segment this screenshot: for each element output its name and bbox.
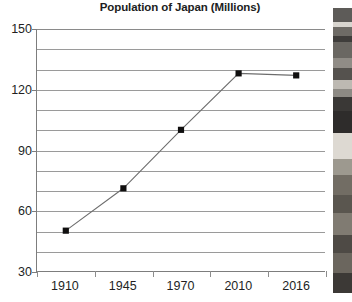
photo-band <box>333 58 352 68</box>
y-axis-tick-label: 60 <box>2 204 32 218</box>
photo-band <box>333 8 352 22</box>
series-line-population <box>66 73 296 230</box>
x-axis-tick <box>268 271 269 277</box>
photo-band <box>333 89 352 97</box>
photo-band <box>333 195 352 213</box>
data-point-marker <box>120 185 126 191</box>
photo-band <box>333 80 352 89</box>
y-axis-tick-label: 150 <box>2 22 32 36</box>
photo-band <box>333 27 352 36</box>
x-axis-tick-label: 1910 <box>51 279 79 293</box>
x-axis-tick <box>326 271 327 277</box>
series-marker-group <box>63 70 300 233</box>
y-axis-label-group: 150120906030 <box>0 29 32 272</box>
photo-band <box>333 253 352 273</box>
photo-band <box>333 111 352 133</box>
photo-band <box>333 213 352 235</box>
data-point-marker <box>63 228 69 234</box>
x-axis-tick <box>95 271 96 277</box>
photo-band <box>333 175 352 195</box>
x-axis-label-group: 19101945197020102016 <box>36 279 325 299</box>
photo-band <box>333 68 352 80</box>
y-axis-tick-label: 120 <box>2 83 32 97</box>
x-axis-tick-label: 1945 <box>109 279 137 293</box>
x-axis-tick-label: 2010 <box>224 279 252 293</box>
photo-band <box>333 273 352 293</box>
plot-area <box>36 29 325 272</box>
photo-band <box>333 133 352 159</box>
x-axis-tick <box>153 271 154 277</box>
y-axis-tick-label: 90 <box>2 144 32 158</box>
x-axis-tick <box>210 271 211 277</box>
data-point-marker <box>236 70 242 76</box>
photo-fragment-image <box>333 8 352 293</box>
x-axis-tick-label: 1970 <box>167 279 195 293</box>
data-point-marker <box>293 72 299 78</box>
population-line-chart-figure: Population of Japan (Millions) 150120906… <box>0 0 352 302</box>
chart-title: Population of Japan (Millions) <box>35 1 325 13</box>
photo-band <box>333 235 352 253</box>
photo-band <box>333 97 352 111</box>
photo-band <box>333 42 352 58</box>
x-axis-tick-label: 2016 <box>282 279 310 293</box>
data-point-marker <box>178 127 184 133</box>
y-axis-tick-label: 30 <box>2 265 32 279</box>
series-plot <box>37 29 325 271</box>
x-axis-tick <box>37 271 38 277</box>
photo-band <box>333 159 352 175</box>
